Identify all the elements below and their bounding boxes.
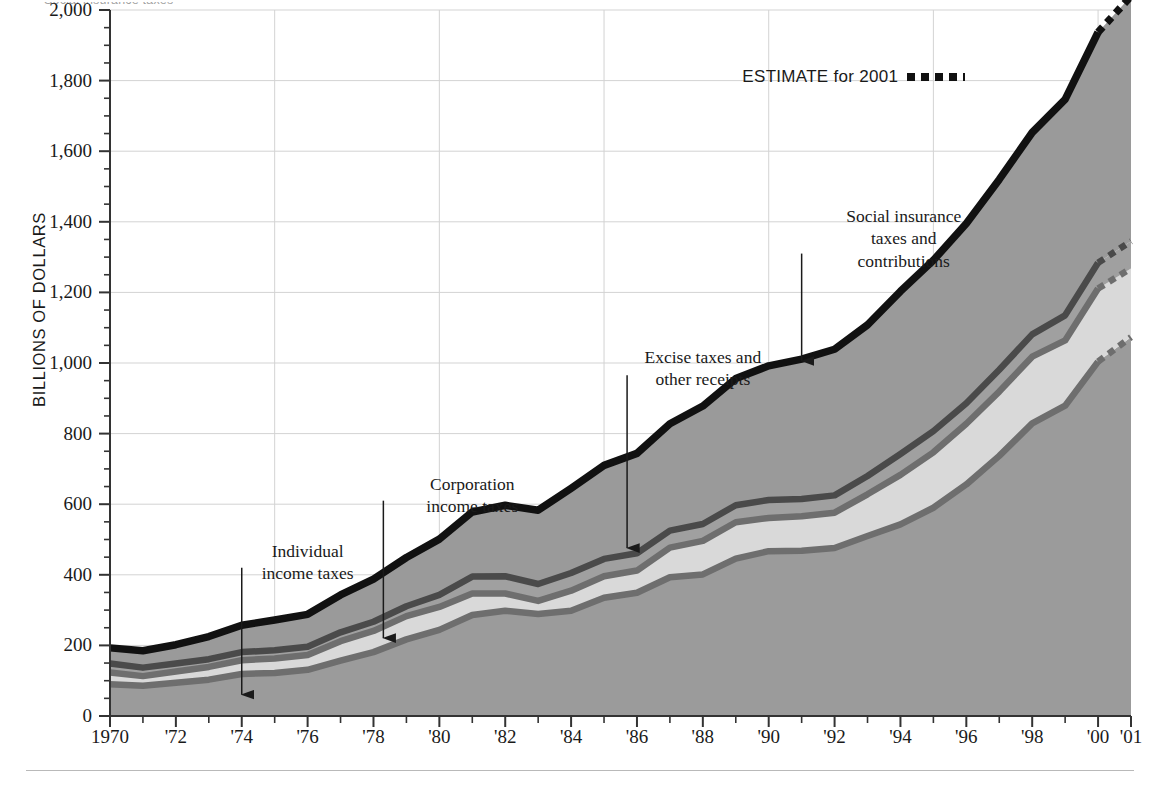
stacked-area-plot — [0, 0, 1156, 792]
annotation-label: Corporation income taxes — [426, 473, 518, 518]
annotation-label: Excise taxes and other receipts — [645, 346, 762, 391]
bottom-rule — [26, 770, 1134, 771]
stacked-areas — [110, 0, 1131, 716]
chart-figure: Social insurance taxes BILLIONS OF DOLLA… — [0, 0, 1156, 792]
estimate-dotted-line-swatch — [907, 73, 965, 81]
annotation-label: Individual income taxes — [262, 540, 354, 585]
annotation-label: Social insurance taxes and contributions — [846, 205, 961, 272]
estimate-legend-label: ESTIMATE for 2001 — [742, 67, 898, 87]
estimate-legend: ESTIMATE for 2001 — [742, 67, 965, 87]
